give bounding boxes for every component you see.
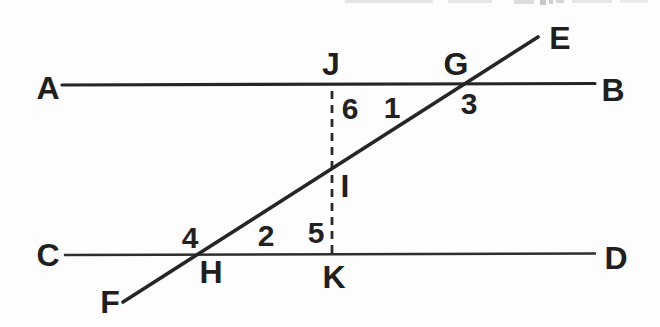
point-label-a: A xyxy=(36,72,59,104)
angle-label-4: 4 xyxy=(182,223,199,253)
point-label-k: K xyxy=(322,261,345,293)
scan-artifact-top-edge xyxy=(345,0,648,5)
point-label-g: G xyxy=(444,48,469,80)
line-ab xyxy=(62,84,595,86)
angle-label-5: 5 xyxy=(308,218,325,248)
angle-label-6: 6 xyxy=(342,94,359,124)
point-label-d: D xyxy=(604,242,627,274)
angle-label-2: 2 xyxy=(258,221,275,251)
point-label-h: H xyxy=(199,256,222,288)
point-label-j: J xyxy=(322,48,340,80)
angle-label-3: 3 xyxy=(461,89,478,119)
point-label-e: E xyxy=(549,22,570,54)
geometry-diagram: A B C D E F G H I J K 1 2 3 4 5 6 xyxy=(0,0,660,327)
angle-label-1: 1 xyxy=(384,93,401,123)
line-cd xyxy=(65,254,595,256)
point-label-f: F xyxy=(100,286,120,318)
point-label-c: C xyxy=(36,239,59,271)
point-label-b: B xyxy=(601,74,624,106)
point-label-i: I xyxy=(341,170,350,202)
